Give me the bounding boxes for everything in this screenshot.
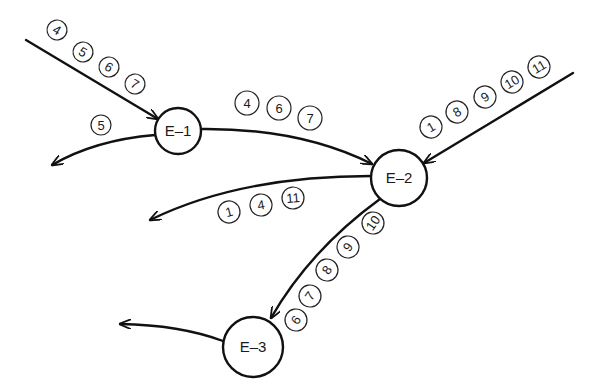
- tag-item: 11: [286, 190, 301, 206]
- tag-item: 7: [306, 111, 313, 126]
- edge-e3-output: [120, 324, 223, 341]
- tag-item: 5: [97, 118, 104, 133]
- tag-item: 4: [243, 96, 250, 111]
- node-e2-label: E–2: [386, 169, 413, 186]
- node-e3: E–3: [223, 317, 283, 377]
- node-e3-label: E–3: [240, 338, 267, 355]
- node-e1: E–1: [155, 108, 201, 154]
- tag-item: 6: [275, 101, 282, 116]
- node-e2: E–2: [371, 150, 427, 206]
- edge-input-to-e2: [424, 73, 573, 163]
- tags-e2-to-e3: 6 7 8 9 10: [281, 208, 389, 336]
- edge-e1-to-e2: [201, 129, 372, 164]
- node-e1-label: E–1: [165, 122, 192, 139]
- tags-input-to-e1: 4 5 6 7: [43, 16, 148, 97]
- flow-diagram: E–1 E–2 E–3 4 5 6 7 5 4 6 7 1 8 9 10 11 …: [0, 0, 589, 391]
- edge-e1-output: [52, 135, 155, 165]
- tags-e1-to-e2: 4 6 7: [235, 91, 322, 130]
- tags-e1-output: 5: [91, 115, 111, 135]
